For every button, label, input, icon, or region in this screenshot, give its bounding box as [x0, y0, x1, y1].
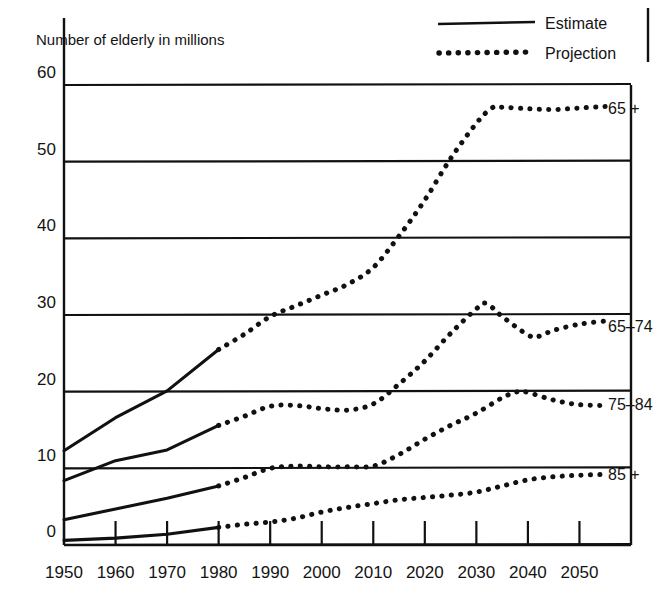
series-label-0: 65 +	[608, 100, 640, 117]
y-tick-label-10: 10	[37, 446, 56, 465]
grid-line-50	[64, 161, 631, 162]
estimate-line-1	[64, 425, 219, 480]
estimate-line-2	[64, 486, 219, 520]
x-tick-label-1990: 1990	[251, 563, 289, 582]
x-tick-label-2020: 2020	[406, 563, 444, 582]
chart-frame	[64, 8, 648, 545]
x-tick-label-1960: 1960	[97, 563, 135, 582]
grid-line-20	[64, 391, 631, 392]
grid-line-30	[64, 314, 631, 315]
x-tick-label-1950: 1950	[45, 563, 83, 582]
projection-line-3	[219, 474, 606, 527]
x-tick-label-2040: 2040	[509, 563, 547, 582]
y-tick-label-40: 40	[37, 216, 56, 235]
legend-projection-label: Projection	[545, 45, 616, 62]
x-tick-label-2000: 2000	[303, 563, 341, 582]
grid-line-60	[64, 84, 631, 85]
legend-estimate-line	[438, 22, 535, 24]
y-tick-label-60: 60	[37, 63, 56, 82]
series-label-2: 75–84	[608, 396, 653, 413]
y-tick-label-30: 30	[37, 293, 56, 312]
projection-line-1	[219, 303, 606, 425]
legend-estimate-label: Estimate	[545, 15, 607, 32]
series-label-1: 65–74	[608, 318, 653, 335]
grid-line-40	[64, 237, 631, 238]
legend-projection-line	[439, 52, 534, 53]
projection-line-2	[219, 391, 606, 486]
x-tick-label-2010: 2010	[354, 563, 392, 582]
grid-lines	[64, 84, 631, 545]
x-tick-label-1970: 1970	[148, 563, 186, 582]
chart-legend: Estimate Projection	[438, 15, 616, 62]
y-axis-tick-labels: 6050403020100	[37, 63, 56, 541]
estimate-line-3	[64, 527, 219, 540]
x-tick-label-2050: 2050	[561, 563, 599, 582]
data-series-group	[64, 106, 605, 540]
x-axis-ticks	[64, 521, 579, 545]
y-tick-label-0: 0	[47, 522, 56, 541]
y-tick-label-50: 50	[37, 140, 56, 159]
chart-canvas: Estimate Projection Number of elderly in…	[0, 0, 670, 590]
x-axis-tick-labels: 1950196019701980199020002010202020302040…	[45, 563, 598, 582]
series-label-3: 85 +	[608, 466, 640, 483]
series-65-	[64, 106, 605, 450]
series-85-	[64, 474, 605, 540]
x-tick-label-2030: 2030	[457, 563, 495, 582]
projection-line-0	[219, 106, 606, 349]
elderly-population-chart: Estimate Projection Number of elderly in…	[0, 0, 670, 590]
y-tick-label-20: 20	[37, 370, 56, 389]
x-tick-label-1980: 1980	[200, 563, 238, 582]
